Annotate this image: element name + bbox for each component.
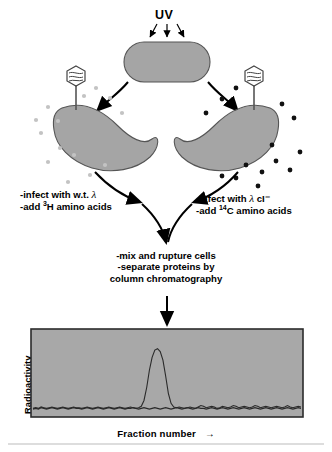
chart-panel [31,329,303,417]
left-cell [53,105,157,170]
converge-arrow-right [194,172,238,202]
curved-arrow-icon-left [98,82,128,110]
curved-arrow-icon-right [208,82,237,110]
bacteriophage-icon-left [67,66,85,110]
figure-graphics [0,0,332,452]
merge-arrow-down-right [168,204,192,242]
converge-arrow-left [95,172,140,202]
figure-container: UV -infect with w.t. λ -add 3H amino aci… [0,0,332,452]
parent-cell [124,42,210,82]
uv-arrow-icon [150,24,184,37]
bacteriophage-icon-right [245,66,263,110]
right-cell [174,105,278,170]
merge-arrow-down [142,204,166,242]
